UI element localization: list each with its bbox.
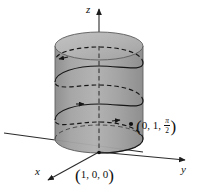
z-axis-label: z [86,4,90,15]
figure-canvas [0,0,198,192]
point-label-0-1-pi-over-2: (0, 1, π2) [136,117,176,135]
point-marker-1-0-0 [97,151,101,155]
y-axis-label: y [181,164,186,175]
x-axis-label: x [35,166,40,177]
point-marker-0-1-pi-over-2 [129,122,133,126]
helix-on-cylinder-figure: z y x (1, 0, 0) (0, 1, π2) [0,0,198,192]
close-paren: ) [170,117,176,136]
point-label-1-0-0: (1, 0, 0) [75,167,114,184]
sep-2: , [158,119,164,131]
positive-y-axis [99,152,185,160]
close-paren: ) [108,166,114,185]
